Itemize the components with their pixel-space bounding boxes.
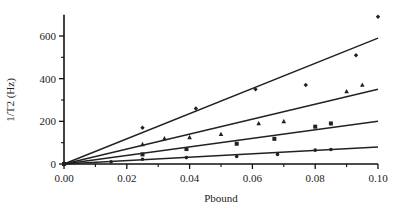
chart-canvas: 02004006000.000.020.040.060.080.10 Pboun… [0,0,407,211]
fit-lines [64,38,378,164]
x-tick-label: 0.08 [306,172,326,184]
y-tick-label: 600 [40,30,57,42]
series-2-point [282,119,287,123]
series-4-point [235,155,239,159]
series-4-point [185,156,189,160]
series-4-point [313,148,317,152]
series-1-point [140,126,144,130]
series-1-point [376,15,380,19]
series-3-point [235,142,239,146]
series-2-point [140,142,145,146]
series-3-point [184,147,188,151]
series-4-point [276,153,280,157]
series-2-point [162,136,167,140]
series-2-point [219,132,224,136]
y-tick-label: 400 [40,73,57,85]
x-tick-label: 0.04 [180,172,200,184]
series-1-point [304,83,308,87]
series-4-point [62,162,66,166]
scatter-chart: 02004006000.000.020.040.060.080.10 Pboun… [0,0,407,211]
y-tick-label: 0 [51,158,57,170]
series-4-point [109,160,113,164]
series-2-point [344,89,349,93]
x-tick-label: 0.10 [368,172,388,184]
x-tick-label: 0.02 [117,172,136,184]
series-2-point [360,83,365,87]
series-3-fit-line [64,121,378,164]
series-3-point [272,137,276,141]
series-1-point [354,53,358,57]
series-4-point [329,148,333,152]
series-3-point [313,125,317,129]
series-3-point [329,121,333,125]
data-points [62,15,381,167]
series-2-point [187,135,192,139]
x-tick-label: 0.06 [243,172,263,184]
y-axis-label: 1/T2 (Hz) [4,78,17,122]
series-4-point [141,158,145,162]
y-tick-label: 200 [40,115,57,127]
x-axis-label: Pbound [204,192,238,204]
x-tick-label: 0.00 [54,172,74,184]
series-3-point [141,152,145,156]
series-2-point [256,121,261,125]
